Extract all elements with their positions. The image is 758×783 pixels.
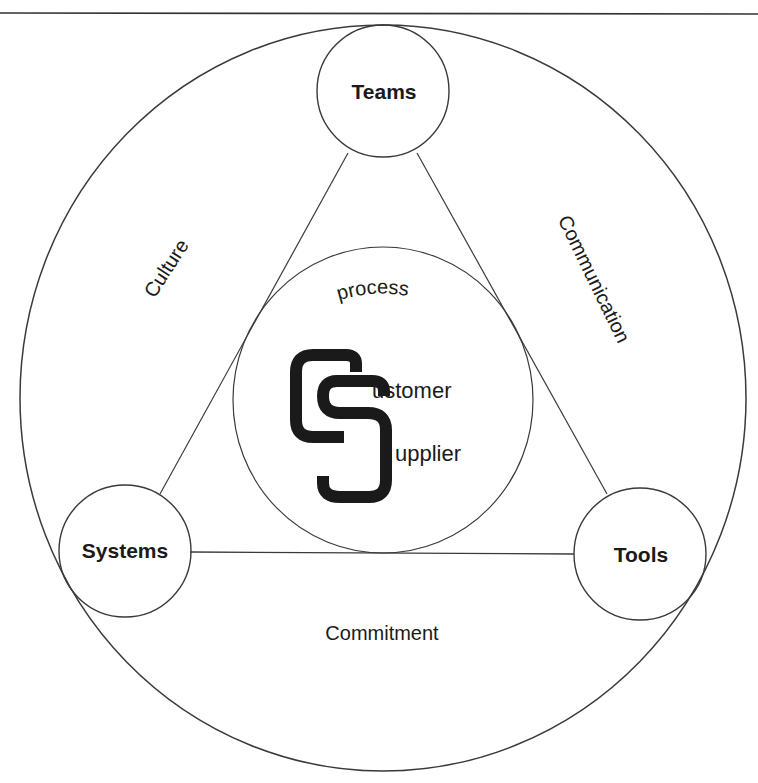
supplier-word: upplier xyxy=(395,441,461,466)
process-label: process xyxy=(334,276,411,305)
node-tools: Tools xyxy=(574,488,706,620)
top-divider xyxy=(0,13,758,14)
culture-label: Culture xyxy=(139,235,193,301)
customer-word: ustomer xyxy=(372,378,451,403)
commitment-label: Commitment xyxy=(325,622,439,644)
process-label-path: process xyxy=(334,276,411,305)
customer-supplier-diagram: Teams Systems Tools Culture Communicatio… xyxy=(0,0,758,783)
node-teams: Teams xyxy=(317,25,449,157)
node-teams-label: Teams xyxy=(352,80,417,103)
cs-logo xyxy=(296,355,386,497)
node-tools-label: Tools xyxy=(614,543,668,566)
communication-label: Communication xyxy=(554,212,635,347)
node-systems-label: Systems xyxy=(82,539,168,562)
node-systems: Systems xyxy=(59,485,191,617)
